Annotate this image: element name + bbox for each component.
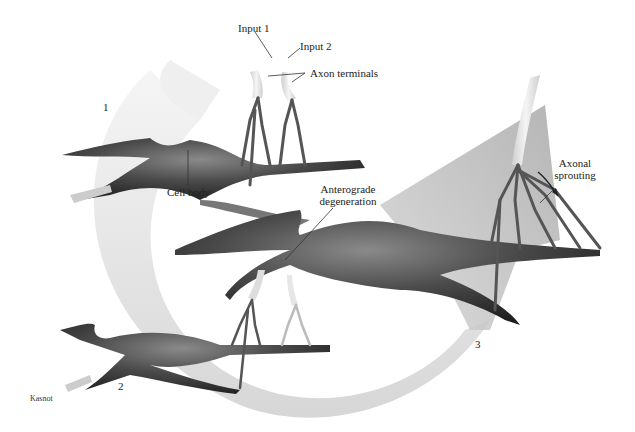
axonal-sprouting-label: Axonal sprouting	[540, 157, 610, 181]
input-1-label: Input 1	[238, 22, 269, 34]
axonal-line-2: sprouting	[540, 169, 610, 181]
step-1-number: 1	[103, 101, 109, 113]
axonal-line-1: Axonal	[540, 157, 610, 169]
cell-body-label: Cell body	[167, 186, 210, 198]
anterograde-degeneration-label: Anterograde degeneration	[308, 183, 388, 207]
neuron-plasticity-diagram	[0, 0, 635, 432]
step-3-number: 3	[475, 338, 481, 350]
step-2-number: 2	[118, 380, 124, 392]
neuron-stage-2	[60, 324, 330, 394]
input-2-label: Input 2	[300, 40, 331, 52]
anterograde-line-1: Anterograde	[308, 183, 388, 195]
anterograde-line-2: degeneration	[308, 195, 388, 207]
degenerating-axons-stage-2	[232, 270, 310, 388]
artist-credit: Kasnot	[30, 394, 53, 403]
axon-terminals-label: Axon terminals	[310, 67, 378, 79]
